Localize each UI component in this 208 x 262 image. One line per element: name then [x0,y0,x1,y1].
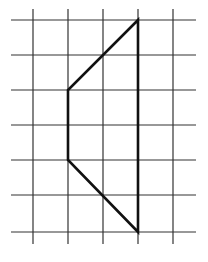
grid-diagram [0,0,208,262]
grid-lines [11,9,196,244]
